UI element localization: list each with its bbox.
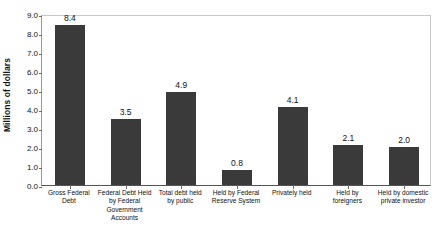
- bar[interactable]: [278, 107, 308, 185]
- y-axis-tick-labels: 9.08.07.06.05.04.03.02.01.00.0: [14, 10, 40, 190]
- x-axis-category-label-line: private investor: [375, 197, 431, 205]
- bar-value-label: 2.1: [342, 133, 354, 143]
- x-axis-category-label: Privately held: [264, 189, 320, 197]
- x-axis-category-label: Total debt heldby public: [152, 189, 208, 206]
- bar[interactable]: [55, 25, 85, 185]
- bar-value-label: 8.4: [64, 13, 76, 23]
- bar-group[interactable]: 0.8: [209, 16, 265, 185]
- y-axis-title: Millions of dollars: [0, 0, 14, 190]
- x-axis-category-labels: Gross FederalDebtFederal Debt Heldby Fed…: [41, 189, 431, 226]
- y-axis-tick-label: 7.0: [27, 49, 38, 58]
- y-axis-tick-label: 1.0: [27, 163, 38, 172]
- y-axis-tick-label: 4.0: [27, 106, 38, 115]
- bar-group[interactable]: 2.0: [376, 16, 432, 185]
- y-axis-tick-label: 0.0: [27, 182, 38, 191]
- bar-value-label: 4.1: [287, 95, 299, 105]
- x-axis-category-label: Held byforeigners: [320, 189, 376, 206]
- x-axis-category-label-line: Federal Debt Held: [97, 189, 153, 197]
- x-axis-category-label-line: by public: [152, 197, 208, 205]
- bar[interactable]: [333, 145, 363, 185]
- bar[interactable]: [389, 147, 419, 185]
- bar[interactable]: [166, 92, 196, 185]
- y-axis-tick-label: 2.0: [27, 144, 38, 153]
- bar-value-label: 4.9: [175, 80, 187, 90]
- y-axis-title-label: Millions of dollars: [2, 58, 12, 132]
- x-axis-category-label-line: Held by Federal: [208, 189, 264, 197]
- y-axis-tick-mark: [39, 149, 42, 150]
- bar-group[interactable]: 8.4: [42, 16, 98, 185]
- y-axis-tick-label: 6.0: [27, 68, 38, 77]
- x-axis-category-label-line: foreigners: [320, 197, 376, 205]
- y-axis-tick-mark: [39, 168, 42, 169]
- bar-value-label: 0.8: [231, 158, 243, 168]
- bar[interactable]: [222, 170, 252, 185]
- y-axis-tick-mark: [39, 16, 42, 17]
- x-axis-category-label-line: Accounts: [97, 214, 153, 222]
- y-axis-tick-mark: [39, 187, 42, 188]
- bar-group[interactable]: 2.1: [321, 16, 377, 185]
- bar-group[interactable]: 4.9: [153, 16, 209, 185]
- bar-value-label: 2.0: [398, 135, 410, 145]
- x-axis-category-label-line: Privately held: [264, 189, 320, 197]
- y-axis-tick-label: 8.0: [27, 30, 38, 39]
- bar-group[interactable]: 4.1: [265, 16, 321, 185]
- y-axis-tick-label: 9.0: [27, 11, 38, 20]
- x-axis-category-label-line: Reserve System: [208, 197, 264, 205]
- plot-area: 8.43.54.90.84.12.12.0: [41, 15, 431, 186]
- x-axis-category-label-line: Government: [97, 206, 153, 214]
- x-axis-category-label-line: Held by: [320, 189, 376, 197]
- x-axis-category-label-line: Total debt held: [152, 189, 208, 197]
- x-axis-category-label-line: Held by domestic: [375, 189, 431, 197]
- x-axis-category-label: Gross FederalDebt: [41, 189, 97, 206]
- y-axis-tick-mark: [39, 92, 42, 93]
- x-axis-category-label-line: Debt: [41, 197, 97, 205]
- x-axis-category-label-line: by Federal: [97, 197, 153, 205]
- y-axis-tick-mark: [39, 73, 42, 74]
- bar-chart: Millions of dollars 9.08.07.06.05.04.03.…: [0, 0, 440, 226]
- y-axis-tick-mark: [39, 54, 42, 55]
- x-axis-category-label-line: Gross Federal: [41, 189, 97, 197]
- y-axis-tick-label: 5.0: [27, 87, 38, 96]
- y-axis-tick-mark: [39, 35, 42, 36]
- bar[interactable]: [111, 119, 141, 186]
- bar-group[interactable]: 3.5: [98, 16, 154, 185]
- y-axis-tick-label: 3.0: [27, 125, 38, 134]
- x-axis-category-label: Held by FederalReserve System: [208, 189, 264, 206]
- bars-layer: 8.43.54.90.84.12.12.0: [42, 16, 430, 185]
- bar-value-label: 3.5: [120, 107, 132, 117]
- x-axis-category-label: Federal Debt Heldby FederalGovernmentAcc…: [97, 189, 153, 223]
- y-axis-tick-mark: [39, 111, 42, 112]
- y-axis-tick-mark: [39, 130, 42, 131]
- x-axis-category-label: Held by domesticprivate investor: [375, 189, 431, 206]
